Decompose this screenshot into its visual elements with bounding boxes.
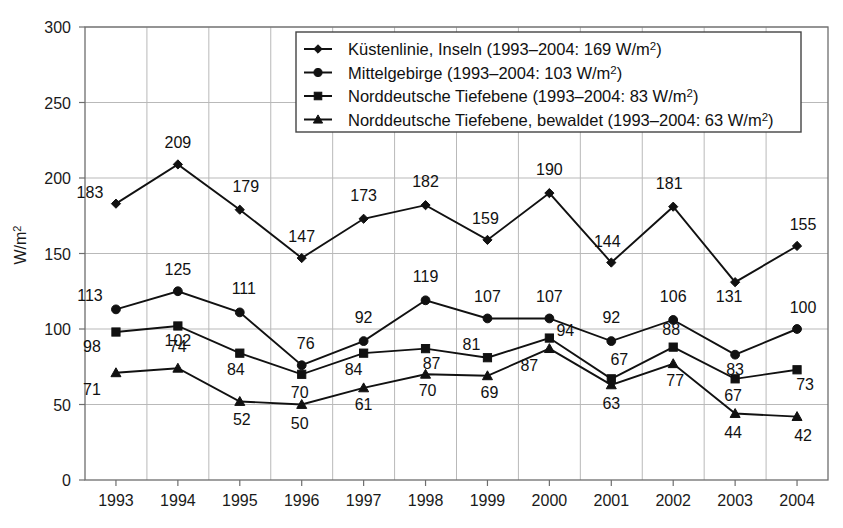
data-point-label: 190 — [536, 161, 563, 178]
series-2: 11312511176921191071079210683100 — [77, 261, 816, 377]
data-point-marker-square — [298, 370, 306, 378]
x-axis-tick-label: 2003 — [717, 492, 753, 509]
data-point-label: 63 — [602, 395, 620, 412]
data-point-label: 183 — [77, 184, 104, 201]
data-point-label: 50 — [291, 415, 309, 432]
data-point-marker-circle — [173, 287, 182, 296]
data-point-marker-square — [793, 366, 801, 374]
data-point-label: 76 — [297, 335, 315, 352]
data-point-label: 70 — [291, 384, 309, 401]
legend-marker-square — [314, 92, 322, 100]
series-1: 183209179147173182159190144181131155 — [77, 134, 817, 305]
data-point-label: 144 — [594, 233, 621, 250]
data-point-label: 81 — [463, 336, 481, 353]
data-point-marker-square — [421, 345, 429, 353]
data-point-label: 131 — [716, 288, 743, 305]
y-axis-tick-label: 0 — [62, 472, 71, 489]
chart-container: 0501001502002503001993199419951996199719… — [0, 0, 843, 528]
x-axis-tick-label: 1997 — [346, 492, 382, 509]
x-axis-tick-label: 1995 — [222, 492, 258, 509]
data-point-label: 42 — [794, 427, 812, 444]
legend-label: Mittelgebirge (1993–2004: 103 W/m2) — [348, 64, 622, 82]
data-point-marker-square — [669, 343, 677, 351]
x-axis-tick-label: 1998 — [408, 492, 444, 509]
series-4: 717452506170698763774442 — [83, 338, 812, 443]
data-point-marker-square — [112, 328, 120, 336]
data-point-label: 106 — [660, 288, 687, 305]
chart-legend: Küstenlinie, Inseln (1993–2004: 169 W/m2… — [296, 32, 801, 132]
legend-label: Norddeutsche Tiefebene, bewaldet (1993–2… — [348, 111, 774, 129]
data-point-label: 119 — [413, 268, 439, 285]
data-point-marker-circle — [359, 337, 368, 346]
x-axis-tick-label: 2004 — [779, 492, 815, 509]
data-point-label: 179 — [232, 178, 259, 195]
data-point-label: 209 — [165, 134, 192, 151]
data-point-marker-circle — [235, 308, 244, 317]
data-point-label: 155 — [790, 216, 817, 233]
data-point-label: 67 — [724, 387, 742, 404]
data-point-label: 159 — [472, 210, 499, 227]
data-point-label: 67 — [610, 351, 628, 368]
data-point-marker-square — [731, 375, 739, 383]
data-point-label: 98 — [83, 338, 101, 355]
x-axis-tick-label: 1994 — [160, 492, 196, 509]
data-point-marker-square — [236, 349, 244, 357]
data-point-label: 74 — [169, 338, 187, 355]
data-point-label: 70 — [419, 382, 437, 399]
y-axis-tick-label: 250 — [44, 95, 71, 112]
data-point-label: 147 — [288, 228, 315, 245]
data-point-marker-square — [360, 349, 368, 357]
data-point-label: 84 — [227, 361, 245, 378]
legend-label: Küstenlinie, Inseln (1993–2004: 169 W/m2… — [348, 40, 662, 58]
data-point-label: 173 — [350, 187, 377, 204]
data-point-marker-circle — [483, 314, 492, 323]
data-point-marker-square — [174, 322, 182, 330]
data-point-marker-circle — [607, 337, 616, 346]
data-point-label: 69 — [481, 384, 499, 401]
data-point-marker-diamond — [111, 199, 120, 208]
data-point-label: 92 — [355, 309, 373, 326]
data-point-label: 107 — [474, 288, 501, 305]
data-point-label: 113 — [77, 287, 103, 304]
data-point-label: 73 — [796, 376, 814, 393]
data-point-label: 52 — [233, 411, 251, 428]
x-axis-tick-label: 1999 — [470, 492, 506, 509]
data-point-marker-circle — [421, 296, 430, 305]
data-point-label: 44 — [724, 424, 742, 441]
data-point-marker-triangle — [544, 344, 554, 353]
x-axis-tick-label: 1993 — [98, 492, 134, 509]
data-point-label: 111 — [232, 280, 256, 297]
data-point-label: 88 — [662, 321, 680, 338]
data-point-marker-circle — [545, 314, 554, 323]
data-point-label: 181 — [656, 175, 683, 192]
data-point-marker-circle — [731, 350, 740, 359]
y-axis-tick-label: 150 — [44, 246, 71, 263]
y-axis-tick-label: 100 — [44, 321, 71, 338]
x-axis-tick-label: 2000 — [532, 492, 568, 509]
data-point-marker-square — [545, 334, 553, 342]
data-point-label: 92 — [602, 309, 620, 326]
data-point-marker-circle — [793, 325, 802, 334]
data-point-label: 71 — [83, 381, 101, 398]
data-point-marker-square — [483, 354, 491, 362]
data-point-marker-diamond — [359, 214, 368, 223]
data-point-label: 87 — [520, 357, 538, 374]
y-axis-tick-label: 200 — [44, 170, 71, 187]
data-point-marker-triangle — [668, 359, 678, 368]
y-axis-title: W/m2 — [11, 226, 29, 265]
data-point-label: 84 — [345, 361, 363, 378]
legend-label: Norddeutsche Tiefebene (1993–2004: 83 W/… — [348, 87, 698, 105]
data-point-marker-diamond — [792, 241, 801, 250]
data-point-label: 61 — [355, 396, 373, 413]
data-point-marker-circle — [112, 305, 121, 314]
x-axis-tick-label: 2002 — [655, 492, 691, 509]
y-axis-tick-label: 50 — [53, 397, 71, 414]
x-axis-tick-label: 2001 — [593, 492, 629, 509]
data-point-label: 77 — [666, 372, 684, 389]
data-point-label: 100 — [790, 299, 817, 316]
data-point-marker-circle — [297, 361, 306, 370]
data-point-label: 182 — [412, 173, 439, 190]
data-point-label: 107 — [536, 288, 563, 305]
data-point-label: 94 — [556, 322, 574, 339]
data-point-marker-diamond — [421, 201, 430, 210]
